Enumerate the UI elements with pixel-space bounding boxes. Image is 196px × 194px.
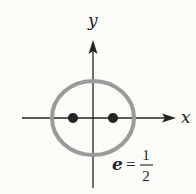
- ellipse-diagram: y x e = 1 2: [0, 0, 196, 194]
- focus-right: [108, 113, 118, 123]
- equals-sign: =: [126, 155, 136, 174]
- x-axis-label: x: [181, 107, 191, 127]
- y-axis: [89, 40, 98, 188]
- x-axis: [22, 114, 176, 123]
- eccentricity-symbol: e: [112, 154, 123, 174]
- eccentricity-label: e = 1 2: [112, 147, 153, 184]
- focus-left: [68, 113, 78, 123]
- fraction-numerator: 1: [142, 147, 150, 163]
- diagram-canvas: y x e = 1 2: [0, 0, 196, 194]
- y-axis-label: y: [87, 10, 98, 30]
- fraction-denominator: 2: [142, 168, 150, 184]
